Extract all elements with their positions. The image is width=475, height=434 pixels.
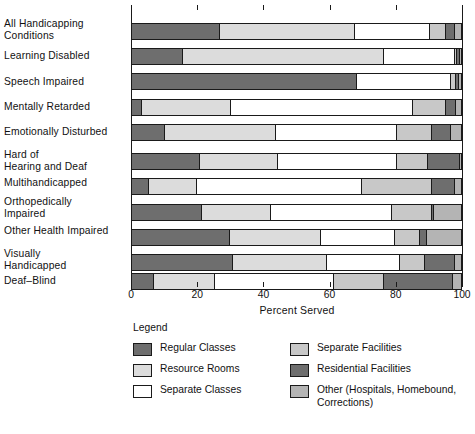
bar-row [131, 99, 463, 116]
bar-segment [326, 254, 399, 271]
bar-segment [131, 204, 201, 221]
plot-area: 020406080100 Percent Served [131, 10, 463, 282]
category-label: Emotionally Disturbed [4, 126, 126, 138]
legend-item[interactable]: Separate Classes [133, 384, 241, 405]
category-label-line: Other Health Impaired [4, 225, 126, 237]
category-label-line: Deaf–Blind [4, 275, 126, 287]
category-label: Hard ofHearing and Deaf [4, 149, 126, 173]
x-axis-tick-label: 0 [128, 289, 134, 300]
category-label: All HandicappingConditions [4, 18, 126, 42]
category-label-line: Hearing and Deaf [4, 161, 126, 173]
bar-segment [275, 124, 396, 141]
legend-swatch [133, 364, 152, 377]
category-label: Mentally Retarded [4, 101, 126, 113]
category-label-line: All Handicapping [4, 18, 126, 30]
x-axis-tick [330, 282, 331, 287]
legend-label: Other (Hospitals, Homebound,Corrections) [317, 384, 456, 409]
figure-caption [3, 424, 333, 434]
bar-segment [426, 229, 462, 246]
bar-segment [458, 73, 462, 90]
legend-item[interactable]: Resource Rooms [133, 363, 241, 384]
bar-segment [141, 99, 230, 116]
category-label-line: Emotionally Disturbed [4, 126, 126, 138]
x-axis-tick-label: 40 [258, 289, 269, 300]
bar-segment [455, 99, 462, 116]
legend-swatch [290, 343, 309, 356]
category-label: OrthopedicallyImpaired [4, 196, 126, 220]
bar-segment [361, 178, 431, 195]
bar-segment [131, 273, 153, 290]
legend-item[interactable]: Regular Classes [133, 342, 241, 363]
legend-swatch [290, 385, 309, 398]
bar-segment [450, 124, 462, 141]
bar-row [131, 153, 463, 170]
bar-segment [148, 178, 196, 195]
legend-item[interactable]: Separate Facilities [290, 342, 456, 363]
category-label: Learning Disabled [4, 50, 126, 62]
bar-segment [445, 23, 453, 40]
bar-segment [445, 99, 455, 116]
bar-segment [153, 273, 214, 290]
bar-segment [131, 23, 219, 40]
category-label: Speech Impaired [4, 76, 126, 88]
bar-segment [131, 73, 356, 90]
x-axis-tick-top [330, 5, 331, 10]
x-axis-tick [263, 282, 264, 287]
bar-segment [429, 23, 446, 40]
bar-segment [454, 23, 462, 40]
bar-segment [433, 204, 462, 221]
category-label: Deaf–Blind [4, 275, 126, 287]
bar-segment [333, 273, 383, 290]
legend-column-2: Separate FacilitiesResidential Facilitie… [290, 342, 456, 405]
x-axis-tick [462, 282, 463, 287]
x-axis-tick-top [462, 5, 463, 10]
legend-label: Resource Rooms [160, 363, 240, 376]
bar-segment [459, 153, 462, 170]
bar-segment [199, 153, 277, 170]
category-label-line: Learning Disabled [4, 50, 126, 62]
bar-segment [131, 254, 232, 271]
legend-swatch [133, 385, 152, 398]
x-axis-tick [197, 282, 198, 287]
x-axis-tick-top [396, 5, 397, 10]
bar-segment [232, 254, 326, 271]
bar-segment [459, 48, 462, 65]
legend-label: Separate Facilities [317, 342, 402, 355]
legend: Legend Regular ClassesResource RoomsSepa… [133, 322, 473, 432]
bar-segment [431, 178, 454, 195]
bar-segment [320, 229, 394, 246]
legend-item[interactable]: Residential Facilities [290, 363, 456, 384]
x-axis-tick-top [131, 5, 132, 10]
category-label-line: Mentally Retarded [4, 101, 126, 113]
bar-segment [424, 254, 454, 271]
bar-segment [454, 178, 462, 195]
bar-segment [201, 204, 271, 221]
bar-segment [354, 23, 428, 40]
bar-segment [131, 124, 164, 141]
bar-segment [391, 204, 431, 221]
bar-segment [454, 254, 462, 271]
category-label: Other Health Impaired [4, 225, 126, 237]
legend-item[interactable]: Other (Hospitals, Homebound,Corrections) [290, 384, 456, 405]
legend-swatch [290, 364, 309, 377]
bar-row [131, 178, 463, 195]
bar-segment [214, 273, 333, 290]
figure-stacked-bar-chart: All HandicappingConditionsLearning Disab… [0, 0, 475, 434]
bar-segment [383, 273, 453, 290]
bar-segment [412, 99, 445, 116]
category-label-line: Orthopedically [4, 196, 126, 208]
bar-row [131, 124, 463, 141]
bar-segment [270, 204, 391, 221]
category-label-line: Handicapped [4, 260, 126, 272]
bar-segment [164, 124, 275, 141]
category-label: VisuallyHandicapped [4, 248, 126, 272]
bar-segment [277, 153, 396, 170]
legend-label-line2: Corrections) [317, 397, 456, 410]
bar-segment [394, 229, 419, 246]
bar-segment [419, 229, 426, 246]
bar-row [131, 229, 463, 246]
legend-label: Separate Classes [160, 384, 241, 397]
bar-segment [131, 229, 229, 246]
bar-segment [399, 254, 424, 271]
bar-segment [131, 48, 182, 65]
